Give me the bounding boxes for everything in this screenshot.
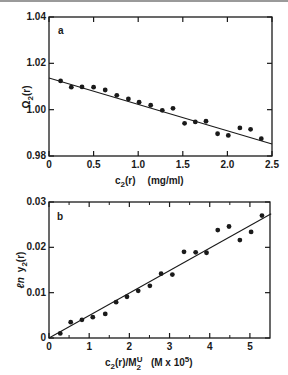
data-point [182, 121, 187, 126]
data-point [91, 85, 96, 90]
data-point [125, 294, 130, 299]
x-tick-label: 0.5 [87, 159, 101, 170]
data-point [114, 300, 119, 305]
y-tick-label: 0.01 [27, 287, 47, 298]
data-point [193, 120, 198, 125]
chart-panel-a: 00.51.01.52.02.50.981.001.021.04 a Ω2(r)… [21, 11, 279, 189]
y-tick-label: 0 [40, 332, 46, 343]
data-point [147, 283, 152, 288]
y-tick-label: 0.02 [27, 241, 47, 252]
y-tick-label: 0.98 [27, 150, 47, 161]
x-axis-label-a: c2(r)(mg/ml) [115, 175, 184, 189]
data-points-a [58, 79, 263, 141]
data-point [160, 108, 165, 113]
data-point [227, 224, 232, 229]
tick-labels-a: 00.51.01.52.02.50.981.001.021.04 [27, 11, 280, 170]
x-tick-label: 2 [127, 341, 133, 352]
x-tick-label: 1.0 [131, 159, 145, 170]
data-point [193, 250, 198, 255]
data-point [170, 272, 175, 277]
figure: 00.51.01.52.02.50.981.001.021.04 a Ω2(r)… [0, 0, 288, 375]
x-tick-label: 0 [46, 341, 52, 352]
data-point [215, 131, 220, 136]
data-point [215, 228, 220, 233]
chart-panel-b: 01234500.010.020.03 b ℓny2(r) c2(r)/MU2(… [15, 196, 271, 372]
data-point [204, 250, 209, 255]
data-point [58, 331, 63, 336]
data-points-b [58, 213, 265, 336]
data-point [80, 85, 85, 90]
panel-letter-a: a [58, 25, 64, 36]
data-point [58, 79, 63, 84]
x-tick-label: 2.0 [220, 159, 234, 170]
y-axis-label-b: ℓny2(r) [15, 252, 29, 289]
data-point [182, 249, 187, 254]
data-point [114, 93, 119, 98]
data-point [80, 317, 85, 322]
x-tick-label: 1.5 [176, 159, 190, 170]
x-tick-label: 1 [86, 341, 92, 352]
data-point [260, 213, 265, 218]
data-point [237, 238, 242, 243]
x-tick-label: 0 [46, 159, 52, 170]
data-point [171, 106, 176, 111]
data-point [103, 312, 108, 317]
data-point [136, 288, 141, 293]
data-point [126, 97, 131, 102]
panel-letter-b: b [57, 211, 63, 222]
data-point [103, 88, 108, 93]
data-point [148, 103, 153, 108]
data-point [204, 119, 209, 124]
x-tick-label: 3 [167, 341, 173, 352]
data-point [159, 271, 164, 276]
y-tick-label: 0.03 [27, 196, 47, 207]
data-point [90, 315, 95, 320]
x-tick-label: 2.5 [265, 159, 279, 170]
data-point [249, 230, 254, 235]
data-point [248, 127, 253, 132]
data-point [68, 320, 73, 325]
data-point [237, 126, 242, 131]
data-point [69, 85, 74, 90]
y-tick-label: 1.04 [27, 11, 47, 22]
data-point [226, 133, 231, 138]
x-tick-label: 5 [247, 341, 253, 352]
data-point [259, 136, 264, 141]
y-tick-label: 1.02 [27, 57, 47, 68]
x-tick-label: 4 [207, 341, 213, 352]
data-point [137, 100, 142, 105]
x-axis-label-b: c2(r)/MU2(M x 105) [105, 355, 193, 372]
